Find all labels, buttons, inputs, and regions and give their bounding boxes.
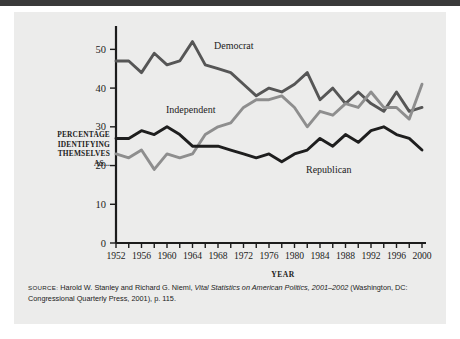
y-axis-title-line-3: THEMSELVES xyxy=(26,149,110,159)
svg-text:1992: 1992 xyxy=(361,250,380,261)
source-title: Vital Statistics on American Politics, 2… xyxy=(195,283,349,292)
svg-text:1956: 1956 xyxy=(132,250,151,261)
chart-figure: 01020304050 1952195619601964196819721976… xyxy=(14,12,446,270)
series-label-democrat: Democrat xyxy=(214,40,253,51)
page-top-bar xyxy=(0,0,460,6)
chart-series-lines xyxy=(116,42,422,170)
source-label: SOURCE: xyxy=(28,284,58,291)
svg-text:10: 10 xyxy=(96,199,107,210)
y-axis-title-line-1: PERCENTAGE xyxy=(26,130,110,140)
x-axis-ticks: 1952195619601964196819721976198019841988… xyxy=(106,243,431,261)
svg-text:40: 40 xyxy=(96,83,107,94)
source-text-before: Harold W. Stanley and Richard G. Niemi, xyxy=(58,283,194,292)
svg-text:1996: 1996 xyxy=(387,250,406,261)
svg-text:0: 0 xyxy=(101,238,106,249)
y-axis-title-line-2: IDENTIFYING xyxy=(26,140,110,150)
svg-text:1968: 1968 xyxy=(208,250,227,261)
series-label-independent: Independent xyxy=(166,104,215,115)
y-axis-title: PERCENTAGE IDENTIFYING THEMSELVES AS... xyxy=(26,130,110,168)
y-axis-title-line-4: AS... xyxy=(26,159,110,169)
x-axis-title: YEAR xyxy=(130,270,436,279)
svg-text:1976: 1976 xyxy=(259,250,278,261)
svg-text:1984: 1984 xyxy=(310,250,329,261)
svg-text:50: 50 xyxy=(96,44,107,55)
chart-axes xyxy=(116,26,426,243)
page-canvas: 01020304050 1952195619601964196819721976… xyxy=(0,0,460,339)
svg-text:1960: 1960 xyxy=(157,250,176,261)
source-note: SOURCE: Harold W. Stanley and Richard G.… xyxy=(28,282,432,304)
svg-text:1980: 1980 xyxy=(285,250,304,261)
svg-text:1952: 1952 xyxy=(106,250,125,261)
svg-text:1964: 1964 xyxy=(183,250,202,261)
svg-text:1972: 1972 xyxy=(234,250,253,261)
series-label-republican: Republican xyxy=(306,164,352,175)
svg-text:1988: 1988 xyxy=(336,250,355,261)
svg-text:2000: 2000 xyxy=(412,250,431,261)
